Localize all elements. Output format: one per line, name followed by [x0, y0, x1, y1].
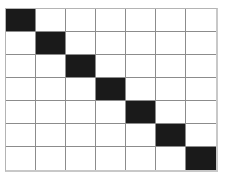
matrix-cell-r2-c6 — [156, 32, 186, 55]
matrix-cell-r5-c6 — [156, 101, 186, 124]
matrix-cell-r3-c1 — [6, 55, 36, 78]
matrix-cell-r3-c5 — [126, 55, 156, 78]
matrix-cell-r5-c5 — [126, 101, 156, 124]
matrix-cell-r4-c1 — [6, 78, 36, 101]
matrix-cell-r1-c7 — [186, 9, 216, 32]
matrix-cell-r2-c7 — [186, 32, 216, 55]
matrix-cell-r3-c6 — [156, 55, 186, 78]
matrix-cell-r4-c6 — [156, 78, 186, 101]
matrix-cell-r7-c5 — [126, 147, 156, 170]
matrix-cell-r4-c3 — [66, 78, 96, 101]
matrix-cell-r4-c2 — [36, 78, 66, 101]
matrix-cell-r7-c4 — [96, 147, 126, 170]
matrix-cell-r7-c6 — [156, 147, 186, 170]
matrix-cell-r2-c3 — [66, 32, 96, 55]
matrix-cell-r1-c3 — [66, 9, 96, 32]
matrix-cell-r3-c7 — [186, 55, 216, 78]
matrix-cell-r2-c5 — [126, 32, 156, 55]
matrix-cell-r2-c4 — [96, 32, 126, 55]
matrix-cell-r7-c3 — [66, 147, 96, 170]
matrix-cell-r1-c4 — [96, 9, 126, 32]
matrix-cell-r5-c7 — [186, 101, 216, 124]
matrix-cell-r1-c1 — [6, 9, 36, 32]
matrix-cell-r4-c7 — [186, 78, 216, 101]
matrix-cell-r7-c2 — [36, 147, 66, 170]
matrix-cell-r6-c1 — [6, 124, 36, 147]
matrix-cell-r5-c1 — [6, 101, 36, 124]
matrix-cell-r7-c7 — [186, 147, 216, 170]
matrix-cell-r2-c1 — [6, 32, 36, 55]
matrix-cell-r7-c1 — [6, 147, 36, 170]
matrix-cell-r1-c6 — [156, 9, 186, 32]
matrix-cell-r3-c4 — [96, 55, 126, 78]
matrix-cell-r3-c2 — [36, 55, 66, 78]
matrix-cell-r5-c3 — [66, 101, 96, 124]
matrix-cell-r6-c4 — [96, 124, 126, 147]
matrix-cell-r5-c2 — [36, 101, 66, 124]
matrix-cell-r1-c2 — [36, 9, 66, 32]
matrix-cell-r5-c4 — [96, 101, 126, 124]
matrix-cell-r6-c3 — [66, 124, 96, 147]
matrix-cell-r2-c2 — [36, 32, 66, 55]
diagonal-matrix-grid — [5, 8, 218, 172]
matrix-cell-r4-c5 — [126, 78, 156, 101]
matrix-cell-r3-c3 — [66, 55, 96, 78]
matrix-cell-r6-c6 — [156, 124, 186, 147]
matrix-cell-r6-c7 — [186, 124, 216, 147]
matrix-cell-r6-c5 — [126, 124, 156, 147]
figure-root — [0, 0, 226, 179]
matrix-cell-r1-c5 — [126, 9, 156, 32]
matrix-cell-r6-c2 — [36, 124, 66, 147]
matrix-cell-r4-c4 — [96, 78, 126, 101]
